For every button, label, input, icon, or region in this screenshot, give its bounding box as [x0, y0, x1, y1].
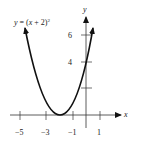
x-axis-label: x: [123, 110, 128, 119]
x-tick-label: −3: [41, 128, 50, 137]
parabola-graph: x y −5 −3 −1 1 4 6 y = (x + 2)2: [0, 0, 141, 141]
equation-label: y = (x + 2)2: [13, 18, 51, 27]
parabola-curve: [25, 28, 60, 115]
x-tick-label: −5: [15, 128, 24, 137]
x-tick-label: 1: [97, 128, 101, 137]
y-tick-label: 4: [68, 58, 72, 67]
y-tick-label: 6: [68, 31, 72, 40]
parabola-curve: [60, 28, 93, 115]
y-axis-label: y: [82, 5, 87, 14]
x-tick-label: −1: [68, 128, 77, 137]
